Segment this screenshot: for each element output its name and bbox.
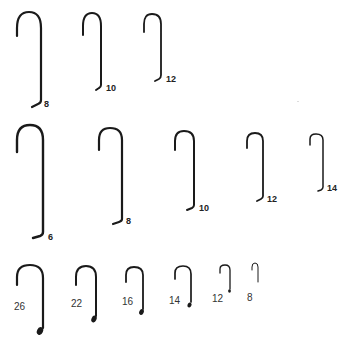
hook-size-label: 10 <box>106 84 116 93</box>
hooks-canvas <box>0 0 338 363</box>
hook-size-label: 8 <box>126 217 131 226</box>
hook-icon <box>247 133 263 201</box>
hook-icon <box>310 134 323 191</box>
hook-size-label: 6 <box>48 233 53 242</box>
hook-icon <box>83 13 101 90</box>
hook-icon <box>99 128 122 224</box>
hook-size-label: 8 <box>247 293 253 303</box>
hook-icon <box>175 131 194 210</box>
hook-icon <box>17 125 43 238</box>
hook-size-label: 12 <box>212 294 223 304</box>
hook-icon <box>252 263 258 282</box>
hook-icon <box>17 265 43 328</box>
hook-icon <box>17 12 41 107</box>
hook-eye-icon <box>138 308 145 315</box>
hook-size-label: 16 <box>122 297 133 307</box>
hook-size-label: 26 <box>14 302 25 312</box>
hook-size-label: 10 <box>199 204 209 213</box>
hook-eye-icon <box>187 302 193 308</box>
hook-eye-icon <box>228 289 231 293</box>
hook-icon <box>220 265 230 289</box>
hook-icon <box>144 14 161 81</box>
hook-size-label: 12 <box>267 195 277 204</box>
hook-size-label: 22 <box>71 299 82 309</box>
hook-size-label: 14 <box>327 184 337 193</box>
hook-size-label: 14 <box>169 296 180 306</box>
scan-speck <box>297 101 299 102</box>
hook-size-label: 8 <box>44 100 49 109</box>
hook-size-label: 12 <box>166 75 176 84</box>
